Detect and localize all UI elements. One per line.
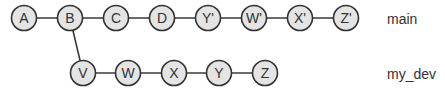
commit-label: Z'	[340, 10, 351, 26]
commit-label: B	[65, 10, 74, 26]
branch-label-my-dev: my_dev	[387, 66, 436, 82]
commit-graph: A B C D Y' W' X' Z' V W X Y Z main my_de…	[0, 0, 445, 92]
commit-node-D: D	[150, 6, 175, 31]
commit-node-Y: Y	[207, 61, 232, 86]
commit-label: Y	[214, 65, 224, 81]
commit-label: Z	[261, 65, 270, 81]
commit-label: X'	[294, 10, 306, 26]
commit-node-W: W	[116, 61, 141, 86]
commit-node-Z: Z	[253, 61, 278, 86]
commit-label: D	[157, 10, 167, 26]
commit-label: C	[111, 10, 121, 26]
commit-node-V: V	[71, 61, 96, 86]
commit-node-A: A	[12, 6, 37, 31]
commit-node-Z-prime: Z'	[334, 6, 359, 31]
commit-node-Y-prime: Y'	[196, 6, 221, 31]
commit-label: A	[19, 10, 29, 26]
commit-label: Y'	[202, 10, 214, 26]
commit-node-X-prime: X'	[288, 6, 313, 31]
branch-label-main: main	[387, 11, 417, 27]
commit-label: X	[169, 65, 179, 81]
commit-label: W	[121, 65, 135, 81]
commit-label: V	[78, 65, 88, 81]
commit-node-C: C	[104, 6, 129, 31]
commit-label: W'	[246, 10, 262, 26]
commit-node-W-prime: W'	[242, 6, 267, 31]
commit-node-B: B	[58, 6, 83, 31]
commit-node-X: X	[162, 61, 187, 86]
